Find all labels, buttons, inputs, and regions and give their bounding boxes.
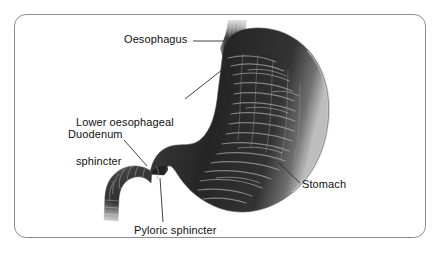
label-pyloric-sphincter: Pyloric sphincter — [134, 224, 216, 237]
label-les-line2: sphincter — [76, 155, 174, 168]
stomach-diagram — [0, 0, 441, 253]
label-lower-oesophageal-sphincter: Lower oesophageal sphincter — [76, 90, 174, 194]
label-oesophagus: Oesophagus — [124, 33, 187, 46]
label-duodenum: Duodenum — [68, 128, 123, 141]
duodenum-fade — [98, 200, 126, 226]
label-stomach: Stomach — [302, 178, 346, 191]
figure-root: Oesophagus Lower oesophageal sphincter D… — [0, 0, 441, 253]
